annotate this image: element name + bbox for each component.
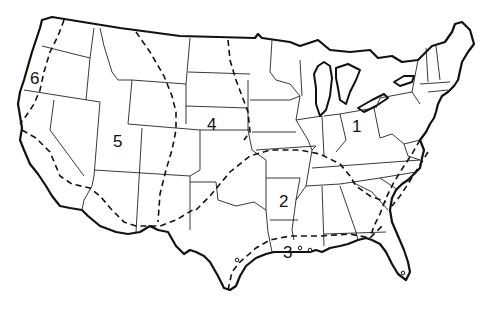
lake-ontario [394,76,414,86]
lake-huron [336,64,360,104]
us-coastline-border [18,17,474,290]
region-label-4: 4 [207,116,216,133]
region-label-5: 5 [113,133,122,150]
region-label-2: 2 [279,193,288,210]
map-graphic [0,0,491,313]
region-label-1: 1 [352,118,361,135]
us-region-map: 1 2 3 4 5 6 [0,0,491,313]
city-marker [401,271,405,275]
region-boundaries [20,20,428,290]
region-label-6: 6 [30,70,39,87]
city-marker [235,258,239,262]
city-marker [298,246,302,250]
lake-erie [358,94,388,112]
region-label-3: 3 [283,244,292,261]
lake-michigan [314,62,332,116]
state-boundaries [24,28,450,252]
city-marker [308,248,312,252]
